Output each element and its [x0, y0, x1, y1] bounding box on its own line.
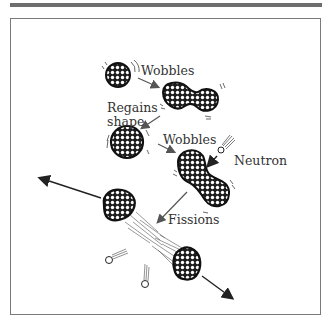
- label-neutron: Neutron: [234, 154, 287, 168]
- fragment-right: [173, 248, 200, 280]
- arrow-icon: [138, 78, 158, 87]
- released-neutron-1: [106, 249, 129, 264]
- nucleus-wobbling-1: [160, 83, 225, 119]
- neutron-particle: [218, 135, 235, 153]
- fragment-left: [104, 190, 135, 221]
- nucleus-wobbling-2: [173, 150, 235, 213]
- nucleus-initial: [102, 60, 139, 87]
- label-shape: shape: [107, 115, 144, 129]
- released-neutron-2: [142, 264, 150, 288]
- nucleus-regained: [107, 126, 149, 158]
- neutron-arrow-icon: [208, 156, 217, 166]
- fragment-right-arrow-icon: [202, 276, 232, 298]
- label-wobbles-2: Wobbles: [163, 133, 216, 147]
- fragment-left-arrow-icon: [40, 178, 101, 198]
- label-regains: Regains: [107, 101, 158, 115]
- label-wobbles-1: Wobbles: [141, 64, 194, 78]
- arrow-icon: [142, 116, 160, 128]
- label-fissions: Fissions: [168, 213, 220, 227]
